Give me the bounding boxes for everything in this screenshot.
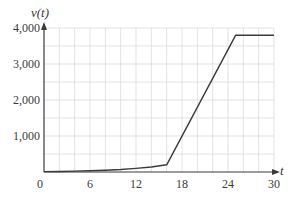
series-line [44,35,274,171]
y-tick-label: 2,000 [0,94,40,106]
x-tick-label: 30 [262,178,286,190]
chart-container: v(t) t 1,0002,0003,0004,000 0612182430 [0,0,294,201]
axes [41,22,280,175]
x-tick-label: 6 [78,178,102,190]
data-series [44,35,274,171]
y-tick-label: 1,000 [0,130,40,142]
x-tick-label: 18 [170,178,194,190]
y-axis-arrow-icon [41,22,47,30]
y-axis-title: v(t) [31,6,49,19]
y-tick-label: 4,000 [0,22,40,34]
y-tick-label: 3,000 [0,58,40,70]
grid-lines [44,28,274,172]
x-tick-label: 0 [28,178,52,190]
x-axis-arrow-icon [272,169,280,175]
plot-area [0,0,294,201]
x-tick-label: 12 [124,178,148,190]
x-tick-label: 24 [216,178,240,190]
x-axis-title: t [280,164,284,177]
